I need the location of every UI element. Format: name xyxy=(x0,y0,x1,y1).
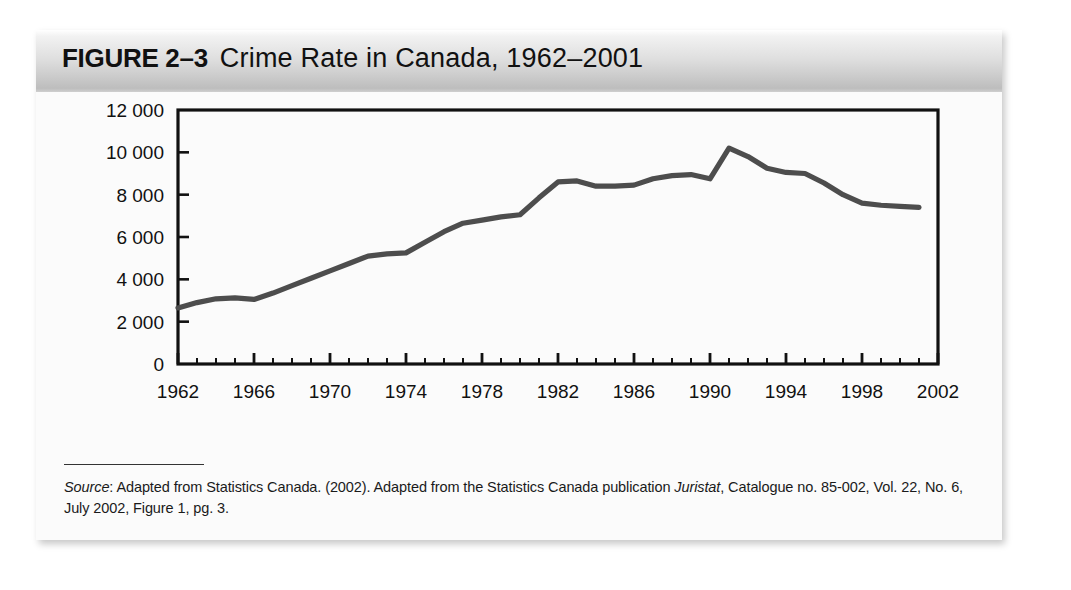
y-axis-tick-label: 6 000 xyxy=(116,227,164,248)
data-series-line xyxy=(178,148,919,308)
y-axis-tick-label: 8 000 xyxy=(116,185,164,206)
x-axis-tick-label: 1990 xyxy=(689,381,731,402)
y-axis-tick-label: 4 000 xyxy=(116,269,164,290)
y-axis-tick-label: 2 000 xyxy=(116,312,164,333)
source-label: Source xyxy=(64,479,109,495)
chart-svg: 02 0004 0006 0008 00010 00012 0001962196… xyxy=(36,92,1002,452)
x-axis-tick-label: 1998 xyxy=(841,381,883,402)
x-axis-tick-label: 1978 xyxy=(461,381,503,402)
x-axis-tick-label: 1982 xyxy=(537,381,579,402)
figure-number-label: FIGURE 2–3 xyxy=(62,43,208,73)
y-axis-tick-label: 10 000 xyxy=(106,142,164,163)
y-axis-tick-label: 12 000 xyxy=(106,100,164,121)
figure-title-text: Crime Rate in Canada, 1962–2001 xyxy=(220,43,643,73)
x-axis-tick-label: 1970 xyxy=(309,381,351,402)
source-divider xyxy=(64,464,204,465)
line-chart: 02 0004 0006 0008 00010 00012 0001962196… xyxy=(36,92,1002,452)
figure-body: 02 0004 0006 0008 00010 00012 0001962196… xyxy=(36,92,1002,540)
figure-title-band: FIGURE 2–3Crime Rate in Canada, 1962–200… xyxy=(36,30,1002,92)
x-axis-tick-label: 1962 xyxy=(157,381,199,402)
screenshot-page: FIGURE 2–3Crime Rate in Canada, 1962–200… xyxy=(0,0,1071,590)
source-note: Source: Adapted from Statistics Canada. … xyxy=(64,477,964,519)
figure-panel: FIGURE 2–3Crime Rate in Canada, 1962–200… xyxy=(36,30,1002,540)
x-axis-tick-label: 2002 xyxy=(917,381,959,402)
figure-title-row: FIGURE 2–3Crime Rate in Canada, 1962–200… xyxy=(62,43,643,74)
x-axis-tick-label: 1966 xyxy=(233,381,275,402)
x-axis-tick-label: 1986 xyxy=(613,381,655,402)
source-publication: Juristat xyxy=(674,479,720,495)
x-axis-tick-label: 1974 xyxy=(385,381,428,402)
x-axis-tick-label: 1994 xyxy=(765,381,808,402)
source-text-head: : Adapted from Statistics Canada. (2002)… xyxy=(109,479,674,495)
y-axis-tick-label: 0 xyxy=(153,354,164,375)
plot-frame xyxy=(178,110,938,364)
